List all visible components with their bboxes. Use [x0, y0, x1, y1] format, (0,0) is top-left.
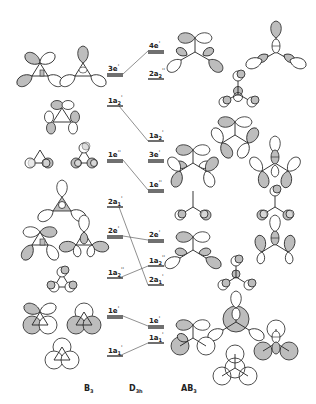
ab3-4e-orbital-b — [244, 21, 308, 71]
column-label-ab3: AB3 — [181, 384, 197, 394]
b3-level-label: 1a2'' — [108, 266, 125, 278]
b3-level: 1e' — [107, 305, 123, 318]
ab3-1a1p-orbital — [213, 345, 257, 385]
b3-1a1p-orbital — [45, 338, 79, 369]
correlation-line-1a1p — [119, 343, 148, 356]
ab3-1epp-orbital-a — [175, 191, 211, 220]
correlation-line-2a1p — [119, 207, 148, 285]
ab3-level: 3e' — [148, 149, 164, 162]
ab3-1a2pp-orbital — [218, 255, 256, 290]
ab3-level-label: 1e' — [149, 315, 161, 325]
ab3-2e-orbital-a — [163, 232, 224, 271]
ab3-1ep-orbital-a — [171, 320, 215, 355]
b3-1a2pp-orbital — [47, 266, 77, 292]
ab3-2a1p-orbital — [206, 291, 267, 343]
b3-1epp-orbital-b — [71, 142, 98, 168]
correlation-line-3e-4e — [123, 51, 148, 74]
b3-level: 1e'' — [107, 149, 123, 162]
ab3-4e-orbital-a — [165, 33, 226, 75]
ab3-level-label: 2a2'' — [149, 67, 166, 79]
ab3-level-label: 2e' — [149, 229, 161, 239]
ab3-level-label: 3e' — [149, 149, 161, 159]
ab3-level-label: 1a1' — [149, 331, 164, 343]
correlation-line-1ep — [123, 316, 148, 326]
ab3-level: 1e' — [148, 315, 164, 328]
b3-level: 1a2'' — [107, 266, 125, 278]
b3-level-label: 2e' — [108, 225, 120, 235]
correlation-line-1epp — [123, 160, 148, 190]
column-labels: B3 D3h AB3 — [84, 384, 197, 394]
b3-1ep-orbital-b — [67, 303, 101, 334]
ab3-3e-orbital-a — [165, 145, 221, 189]
b3-level: 1a2' — [107, 94, 123, 106]
b3-energy-levels: 3e'1a2'1e''2a1'2e'1a2''1e'1a1' — [107, 63, 125, 356]
ab3-level-label: 1e'' — [149, 179, 162, 189]
ab3-level: 2a2'' — [148, 67, 166, 79]
ab3-level: 4e' — [148, 40, 164, 53]
ab3-orbital-pictures — [163, 21, 308, 385]
b3-orbital-pictures — [15, 46, 110, 369]
ab3-3e-orbital-b — [247, 136, 303, 189]
ab3-level: 1a1' — [148, 331, 164, 343]
column-label-d3h: D3h — [129, 384, 143, 394]
b3-2e-orbital-b — [58, 215, 109, 257]
b3-level: 2a1' — [107, 195, 123, 207]
ab3-1a2p-orbital — [209, 117, 261, 161]
b3-1ep-orbital-a — [22, 301, 58, 334]
b3-1epp-orbital-a — [25, 150, 53, 168]
b3-1a2p-orbital — [45, 101, 80, 135]
ab3-level: 1a2'' — [148, 254, 166, 266]
column-label-b3: B3 — [84, 384, 94, 394]
mo-correlation-diagram: 3e'1a2'1e''2a1'2e'1a2''1e'1a1' 4e'2a2''1… — [0, 0, 316, 404]
ab3-level-label: 1a2'' — [149, 254, 166, 266]
b3-level: 1a1' — [107, 344, 123, 356]
b3-level-label: 1a2' — [108, 94, 123, 106]
b3-2e-orbital-a — [19, 227, 61, 263]
ab3-energy-levels: 4e'2a2''1a2'3e'1e''2e'1a2''2a1'1e'1a1' — [148, 40, 166, 343]
correlation-lines — [119, 51, 148, 356]
b3-level-label: 2a1' — [108, 195, 123, 207]
b3-level-label: 1e' — [108, 305, 120, 315]
ab3-level: 1a2' — [148, 129, 164, 141]
ab3-level-label: 1a2' — [149, 129, 164, 141]
b3-level-label: 3e' — [108, 63, 120, 73]
b3-3e-orbital-a — [15, 50, 66, 89]
b3-level: 2e' — [107, 225, 123, 238]
ab3-level-label: 2a1' — [149, 273, 164, 285]
b3-level-label: 1a1' — [108, 344, 123, 356]
ab3-level-label: 4e' — [149, 40, 161, 50]
b3-level: 3e' — [107, 63, 123, 76]
ab3-level: 1e'' — [148, 179, 164, 192]
ab3-2e-orbital-b — [254, 215, 296, 264]
correlation-line-2ep — [123, 236, 148, 240]
ab3-2a2pp-orbital — [219, 70, 259, 107]
correlation-line-1a2p — [119, 106, 148, 141]
ab3-level: 2a1' — [148, 273, 164, 285]
b3-level-label: 1e'' — [108, 149, 121, 159]
b3-3e-orbital-b — [58, 46, 109, 89]
ab3-level: 2e' — [148, 229, 164, 242]
